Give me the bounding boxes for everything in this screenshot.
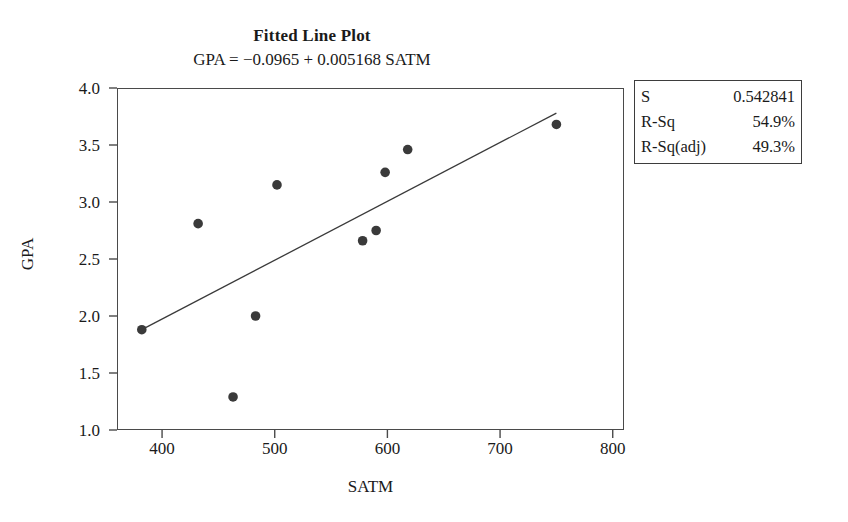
x-tick-label: 600 xyxy=(347,440,427,457)
y-tick-label: 4.0 xyxy=(54,80,100,97)
data-point-marker xyxy=(371,226,381,236)
data-point-marker xyxy=(251,311,261,321)
statistics-label: R-Sq xyxy=(641,109,675,134)
statistics-row: R-Sq(adj)49.3% xyxy=(641,134,795,159)
statistics-value: 49.3% xyxy=(752,134,795,159)
plot-area xyxy=(117,88,624,430)
data-point-marker xyxy=(403,145,413,155)
y-tick-label: 1.0 xyxy=(54,422,100,439)
fit-line xyxy=(142,113,557,330)
y-tick-label: 2.5 xyxy=(54,251,100,268)
y-tick-label: 3.5 xyxy=(54,137,100,154)
data-point-marker xyxy=(380,168,390,178)
statistics-value: 54.9% xyxy=(752,109,795,134)
x-tick-label: 400 xyxy=(122,440,202,457)
x-tick-label: 800 xyxy=(573,440,653,457)
data-point-marker xyxy=(228,392,238,402)
statistics-row: S0.542841 xyxy=(641,84,795,109)
x-tick-label: 500 xyxy=(235,440,315,457)
statistics-box: S0.542841R-Sq54.9%R-Sq(adj)49.3% xyxy=(634,80,802,164)
x-axis-tick-labels: 400500600700800 xyxy=(0,440,848,464)
regression-fit-line xyxy=(142,113,557,330)
x-axis-title: SATM xyxy=(117,477,624,497)
y-tick-label: 2.0 xyxy=(54,308,100,325)
y-axis-title: GPA xyxy=(18,204,38,304)
data-points xyxy=(137,120,561,402)
data-point-marker xyxy=(358,236,368,246)
data-point-marker xyxy=(137,325,147,335)
data-point-marker xyxy=(193,219,203,229)
statistics-value: 0.542841 xyxy=(733,84,795,109)
y-tick-label: 3.0 xyxy=(54,194,100,211)
fitted-line-plot-figure: Fitted Line Plot GPA = −0.0965 + 0.00516… xyxy=(0,0,848,522)
statistics-label: S xyxy=(641,84,650,109)
statistics-label: R-Sq(adj) xyxy=(641,134,706,159)
y-tick-label: 1.5 xyxy=(54,365,100,382)
data-point-marker xyxy=(552,120,562,130)
x-tick-label: 700 xyxy=(460,440,540,457)
statistics-row: R-Sq54.9% xyxy=(641,109,795,134)
tick-marks xyxy=(109,88,613,438)
data-point-marker xyxy=(272,180,282,190)
